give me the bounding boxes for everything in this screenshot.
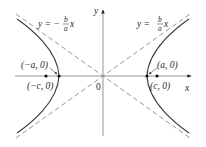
- right-asymptote-numerator: b: [158, 15, 162, 24]
- left-vertex-pointer: [50, 68, 57, 74]
- left-asymptote-denominator: a: [64, 24, 68, 33]
- hyperbola-diagram: y x 0 y = − b a x y = b a x (−a, 0) (−c,…: [0, 0, 206, 147]
- right-focus-point: [155, 74, 158, 77]
- right-focus-label: (c, 0): [150, 81, 170, 92]
- left-vertex-point: [57, 74, 60, 77]
- left-asymptote-equation: y = − b a x: [37, 15, 75, 33]
- right-vertex-label: (a, 0): [157, 60, 178, 71]
- left-asymptote-numerator: b: [64, 15, 68, 24]
- left-asymptote-suffix: x: [69, 19, 75, 29]
- origin-label: 0: [96, 82, 101, 92]
- right-vertex-pointer: [149, 68, 157, 74]
- right-asymptote-denominator: a: [158, 24, 162, 33]
- right-asymptote-prefix: y =: [136, 19, 150, 29]
- y-axis-label: y: [93, 6, 99, 16]
- right-asymptote-equation: y = b a x: [136, 15, 169, 33]
- left-focus-point: [44, 74, 47, 77]
- left-focus-label: (−c, 0): [27, 81, 53, 92]
- right-vertex-point: [145, 74, 148, 77]
- x-axis-label: x: [184, 83, 190, 93]
- left-asymptote-prefix: y = −: [37, 19, 60, 29]
- right-asymptote-suffix: x: [163, 19, 169, 29]
- left-vertex-label: (−a, 0): [21, 60, 48, 71]
